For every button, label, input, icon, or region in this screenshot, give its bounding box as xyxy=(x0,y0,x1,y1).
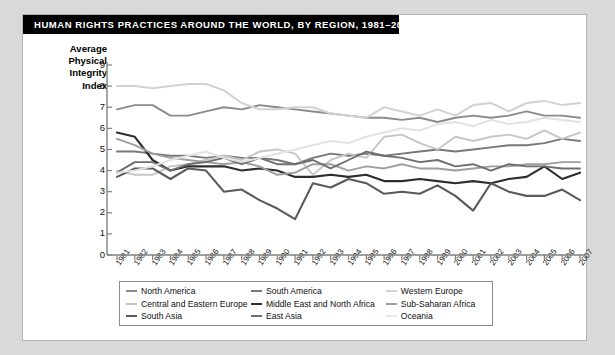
legend-item-south-asia[interactable]: South Asia xyxy=(126,311,251,321)
legend-label: Oceania xyxy=(401,311,433,321)
legend-label: South America xyxy=(266,286,322,296)
legend-row: South AsiaEast AsiaOceania xyxy=(126,310,492,323)
legend-item-central-and-eastern-europe[interactable]: Central and Eastern Europe xyxy=(126,299,251,309)
legend-item-north-america[interactable]: North America xyxy=(126,286,251,296)
series-line-western-europe xyxy=(117,84,580,118)
legend-swatch-icon xyxy=(126,315,137,317)
legend-swatch-icon xyxy=(386,315,397,317)
legend-label: North America xyxy=(141,286,195,296)
series-line-middle-east-and-north-africa xyxy=(117,133,580,184)
legend-swatch-icon xyxy=(251,315,262,317)
series-line-central-and-eastern-europe xyxy=(117,130,580,174)
legend-swatch-icon xyxy=(386,290,397,292)
legend-item-western-europe[interactable]: Western Europe xyxy=(386,286,492,296)
legend-item-south-america[interactable]: South America xyxy=(251,286,386,296)
legend-row: North AmericaSouth AmericaWestern Europe xyxy=(126,285,492,298)
chart-legend: North AmericaSouth AmericaWestern Europe… xyxy=(119,281,493,326)
legend-label: Middle East and North Africa xyxy=(266,299,375,309)
legend-swatch-icon xyxy=(126,303,137,305)
legend-item-oceania[interactable]: Oceania xyxy=(386,311,492,321)
legend-item-sub-saharan-africa[interactable]: Sub-Saharan Africa xyxy=(386,299,492,309)
legend-swatch-icon xyxy=(251,290,262,292)
legend-label: Western Europe xyxy=(401,286,463,296)
legend-swatch-icon xyxy=(126,290,137,292)
series-line-north-america xyxy=(117,105,580,122)
legend-swatch-icon xyxy=(386,303,397,305)
figure-panel: HUMAN RIGHTS PRACTICES AROUND THE WORLD,… xyxy=(22,14,587,341)
legend-row: Central and Eastern EuropeMiddle East an… xyxy=(126,298,492,311)
legend-label: Sub-Saharan Africa xyxy=(401,299,476,309)
legend-swatch-icon xyxy=(251,303,262,305)
legend-item-east-asia[interactable]: East Asia xyxy=(251,311,386,321)
legend-item-middle-east-and-north-africa[interactable]: Middle East and North Africa xyxy=(251,299,386,309)
chart-title: HUMAN RIGHTS PRACTICES AROUND THE WORLD,… xyxy=(23,15,399,34)
legend-label: Central and Eastern Europe xyxy=(141,299,248,309)
legend-label: East Asia xyxy=(266,311,302,321)
legend-label: South Asia xyxy=(141,311,182,321)
